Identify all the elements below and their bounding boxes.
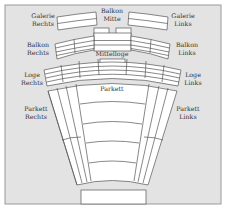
label-galerie-rechts-1: Galerie xyxy=(31,12,55,19)
label-galerie-links-2: Links xyxy=(174,20,191,27)
label-galerie-rechts-2: Rechts xyxy=(32,20,54,27)
label-parkett-rechts-2: Rechts xyxy=(25,113,47,120)
label-loge-links-2: Links xyxy=(184,79,201,86)
seating-plan: Galerie Rechts Balkon Mitte Galerie Link… xyxy=(0,0,225,209)
label-balkon-links-2: Links xyxy=(178,49,195,56)
label-parkett-links-1: Parkett xyxy=(176,105,200,112)
label-parkett-links-2: Links xyxy=(179,113,196,120)
label-balkon-rechts-2: Rechts xyxy=(27,49,49,56)
label-balkon-links-1: Balkon xyxy=(176,41,198,48)
label-loge-rechts-2: Rechts xyxy=(21,79,43,86)
label-mittelloge: Mittelloge xyxy=(96,50,129,58)
label-galerie-links-1: Galerie xyxy=(171,12,195,19)
label-balkon-mitte-2: Mitte xyxy=(103,15,121,22)
label-parkett-rechts-1: Parkett xyxy=(24,105,48,112)
label-parkett: Parkett xyxy=(100,85,124,92)
label-loge-links-1: Loge xyxy=(185,71,201,79)
label-loge-rechts-1: Loge xyxy=(24,71,40,79)
label-balkon-rechts-1: Balkon xyxy=(27,41,49,48)
stage-block xyxy=(81,190,146,204)
label-balkon-mitte-1: Balkon xyxy=(101,7,123,14)
